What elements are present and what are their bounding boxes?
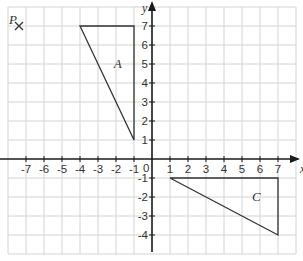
y-tick-label: 6: [142, 39, 148, 51]
x-axis-arrow-icon: [290, 155, 300, 163]
y-axis-arrow-icon: [148, 1, 156, 11]
y-tick-label: 3: [142, 96, 148, 108]
y-tick-label: -2: [138, 191, 148, 203]
y-tick-label: 4: [142, 77, 149, 89]
triangle-c-label: C: [252, 189, 261, 204]
y-tick-label: 1: [142, 134, 148, 146]
x-tick-label: -7: [21, 163, 31, 175]
y-tick-label: 7: [142, 20, 148, 32]
x-tick-label: 7: [275, 163, 281, 175]
x-tick-label: 4: [221, 163, 228, 175]
point-p-label: P: [8, 12, 17, 27]
x-tick-label: 6: [257, 163, 263, 175]
y-axis-label: y: [141, 1, 148, 15]
y-tick-label: -3: [138, 210, 148, 222]
x-tick-label: -2: [111, 163, 121, 175]
x-tick-label: 5: [239, 163, 245, 175]
x-tick-label: -3: [93, 163, 103, 175]
x-tick-label: 2: [185, 163, 191, 175]
triangle-a-label: A: [113, 56, 122, 71]
y-tick-label: 2: [142, 115, 148, 127]
x-tick-label: 1: [167, 163, 173, 175]
x-tick-label: -6: [39, 163, 49, 175]
x-tick-label: -5: [57, 163, 67, 175]
x-tick-label: 3: [203, 163, 209, 175]
y-tick-label: -4: [138, 229, 149, 241]
coordinate-grid: xy0-7-6-5-4-3-2-112345677654321-1-2-3-4A…: [0, 0, 303, 261]
x-tick-label: -4: [75, 163, 86, 175]
x-axis-label: x: [299, 162, 303, 176]
y-tick-label: 5: [142, 58, 148, 70]
y-tick-label: -1: [138, 172, 148, 184]
